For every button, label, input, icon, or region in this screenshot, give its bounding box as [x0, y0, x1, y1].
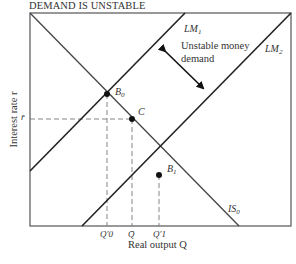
lm2-label: LM2 — [265, 43, 282, 56]
lm1-label: LM1 — [184, 23, 201, 36]
annotation-line-1: Unstable money — [181, 39, 250, 52]
plot-frame — [30, 13, 291, 226]
b0-label: B0 — [115, 86, 125, 99]
x-tick-qbar: Q̄ — [128, 229, 135, 239]
b1-label: B1 — [167, 163, 177, 176]
x-axis-label: Real output Q — [128, 239, 187, 250]
point-b0 — [104, 91, 110, 97]
point-c — [129, 116, 135, 122]
annotation-line-2: demand — [181, 52, 250, 65]
point-b1 — [156, 172, 162, 178]
is0-label: IS0 — [228, 203, 240, 216]
x-tick-q0: Q′0 — [100, 229, 113, 239]
x-tick-q1: Q′1 — [153, 229, 166, 239]
islm-diagram — [0, 0, 296, 264]
y-tick-r-bar: r̄ — [21, 112, 25, 122]
c-label: C — [138, 106, 145, 117]
y-axis-label: Interest rate r — [8, 85, 19, 155]
annotation-text: Unstable money demand — [181, 39, 250, 65]
